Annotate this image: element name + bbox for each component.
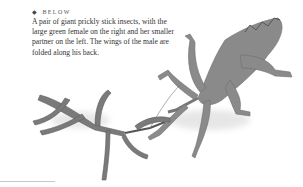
- photo-caption: ◆ BELOW A pair of giant prickly stick in…: [32, 7, 182, 58]
- caption-text: A pair of giant prickly stick insects, w…: [32, 17, 182, 58]
- caption-label: ◆ BELOW: [32, 7, 182, 16]
- divider-rule: [0, 181, 55, 182]
- diamond-bullet-icon: ◆: [32, 8, 38, 15]
- caption-label-text: BELOW: [42, 9, 70, 15]
